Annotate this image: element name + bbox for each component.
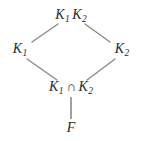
node-intersection-k1-k2: K1∩K2	[49, 80, 93, 96]
node-k1-base: K	[13, 41, 22, 56]
node-intersection-subscript2: 2	[88, 86, 93, 96]
lattice-diagram: K1K2 K1 K2 K1∩K2 F	[0, 0, 142, 141]
node-compositum-base2: K	[72, 7, 81, 22]
edge-intersection-to-k1	[27, 59, 57, 80]
node-k2-base: K	[115, 41, 124, 56]
edge-k1-to-compositum	[32, 24, 58, 42]
node-compositum-subscript1: 1	[65, 14, 70, 24]
node-intersection-base2: K	[79, 79, 88, 94]
node-k1-subscript: 1	[23, 48, 28, 58]
node-k1: K1	[13, 42, 28, 58]
node-intersection-base1: K	[49, 79, 58, 94]
node-compositum-k1k2: K1K2	[55, 8, 87, 24]
node-compositum-subscript2: 2	[82, 14, 87, 24]
node-k2-subscript: 2	[125, 48, 130, 58]
node-intersection-subscript1: 1	[59, 86, 64, 96]
edge-intersection-to-k2	[87, 59, 115, 80]
node-base-field-f: F	[67, 121, 76, 135]
intersection-operator-icon: ∩	[67, 79, 77, 94]
node-k2: K2	[115, 42, 130, 58]
node-compositum-base1: K	[55, 7, 64, 22]
edge-k2-to-compositum	[85, 24, 110, 42]
